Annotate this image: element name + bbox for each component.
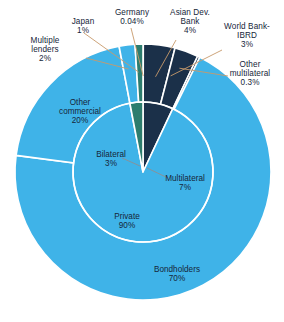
callout-world-bank-ibrd: World Bank- IBRD 3% [215,22,279,50]
callout-other-multilateral: Other multilateral 0.3% [219,60,281,88]
callout-asian-dev-bank: Asian Dev. Bank 4% [163,8,217,36]
label-multilateral: Multilateral 7% [155,174,215,192]
callout-multiple-lenders: Multiple lenders 2% [14,36,76,64]
label-other-commercial: Other commercial 20% [46,98,114,126]
label-bilateral: Bilateral 3% [85,150,137,168]
label-bondholders: Bondholders 70% [140,265,214,283]
label-private: Private 90% [101,212,153,230]
pie-chart-figure: Multiple lenders 2% Japan 1% Germany 0.0… [0,0,284,322]
callout-germany: Germany 0.04% [105,8,159,26]
callout-japan: Japan 1% [62,17,104,35]
